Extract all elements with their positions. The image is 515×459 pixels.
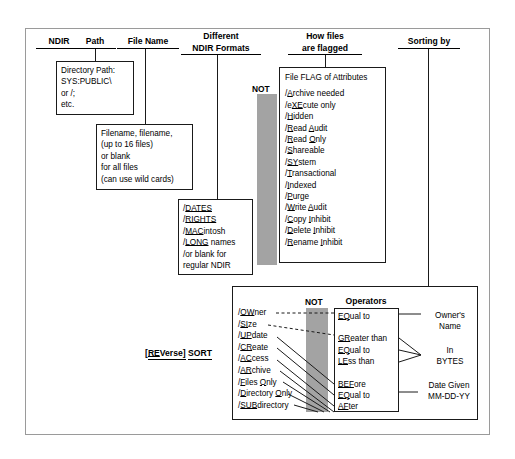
header-sorting-by-label: Sorting by [398,36,460,49]
result-owner-line-1: Name [424,322,476,333]
ndir-format-item-2: /MACintosh [183,226,248,237]
file-name-line-1: (up to 16 files) [101,139,188,150]
header-how-files-flagged: How files are flagged [288,31,362,55]
flag-item-1: /eXEcute only [285,100,380,111]
connector-path [95,49,96,61]
file-name-line-3: for all files [101,162,188,173]
file-name-box: Filename, filename, (up to 16 files) or … [96,124,193,190]
header-file-name-label: File Name [117,36,179,49]
ndir-format-item-3: /LONG names [183,237,248,248]
file-flag-attributes-title: File FLAG of Attributes [285,72,380,83]
result-date-given: Date Given MM-DD-YY [419,381,479,402]
result-bytes-line-1: BYTES [424,357,476,368]
operator-item-3: LEss than [338,356,395,367]
reverse-sort-mnemonic: RE [148,348,160,358]
flag-item-10: /Write Audit [285,202,380,213]
operators-box: EQual to GReater than EQual to LEss than… [334,308,399,412]
flag-item-6: /SYstem [285,157,380,168]
directory-path-line-0: Directory Path: [61,65,129,76]
sort-fields-list: /OWner /SIze /UPdate /CReate /ACcess /AR… [238,307,292,411]
operator-item-0: EQual to [338,311,395,322]
ndir-formats-box: /DATES /RIGHTS /MACintosh /LONG names /o… [178,199,253,275]
header-ndir-formats: Different NDIR Formats [181,31,261,55]
header-path-label: Path [74,36,116,49]
file-name-line-4: (can use wild cards) [101,174,188,185]
operator-item-1: GReater than [338,333,395,344]
ndir-format-item-0: /DATES [183,203,248,214]
connector-file-name [145,49,146,124]
sort-field-3: /CReate [238,342,292,354]
header-ndir-formats-line1: Different [181,31,261,43]
sort-field-4: /ACcess [238,353,292,365]
ndir-format-item-1: /RIGHTS [183,214,248,225]
sort-field-2: /UPdate [238,330,292,342]
directory-path-box: Directory Path: SYS:PUBLIC\ or /; etc. [56,61,134,115]
header-how-files-flagged-line2: are flagged [288,43,362,56]
header-ndir-formats-line2: NDIR Formats [181,43,261,56]
ndir-format-item-4: /or blank for [183,249,248,260]
flag-item-12: /Delete Inhibit [285,225,380,236]
result-in-bytes: In BYTES [424,346,476,367]
sort-field-8: /SUBdirectory [238,400,292,412]
sort-field-5: /ARchive [238,365,292,377]
header-file-name: File Name [117,36,179,49]
reverse-sort-rest: Verse] [160,348,186,358]
flag-item-0: /Archive needed [285,88,380,99]
sort-field-6: /Files Only [238,377,292,389]
operator-item-4: BEFore [338,379,395,390]
flag-item-11: /Copy Inhibit [285,214,380,225]
diagram-canvas: NDIR Path File Name Different NDIR Forma… [0,0,515,459]
header-path: Path [74,36,116,49]
flag-item-2: /Hidden [285,111,380,122]
header-how-files-flagged-line1: How files [288,31,362,43]
file-name-line-2: or blank [101,151,188,162]
result-date-line-1: MM-DD-YY [419,392,479,403]
ndir-format-item-5: regular NDIR [183,260,248,271]
result-owner-name: Owner's Name [424,311,476,332]
operators-title: Operators [334,296,398,307]
header-sorting-by: Sorting by [398,36,460,49]
result-bytes-line-0: In [424,346,476,357]
not-bar-bottom [306,308,328,412]
flag-item-8: /Indexed [285,180,380,191]
operators-title-label: Operators [334,296,398,307]
connector-how-files-flagged [325,55,326,67]
result-owner-line-0: Owner's [424,311,476,322]
flag-item-9: /Purge [285,191,380,202]
file-name-line-0: Filename, filename, [101,128,188,139]
sort-keyword: SORT [188,348,212,360]
operator-item-5: EQual to [338,390,395,401]
result-date-line-0: Date Given [419,381,479,392]
flag-item-7: /Transactional [285,168,380,179]
connector-sorting-by [428,49,429,286]
operators-spacer-2 [338,368,395,379]
directory-path-line-1: SYS:PUBLIC\ [61,76,129,87]
operators-spacer-1 [338,322,395,333]
not-bar-top [257,94,277,265]
directory-path-line-3: etc. [61,99,129,110]
operator-item-6: AFter [338,401,395,412]
sort-field-7: /Directory Only [238,388,292,400]
flag-item-4: /Read Only [285,134,380,145]
flag-item-13: /Rename Inhibit [285,237,380,248]
directory-path-line-2: or /; [61,88,129,99]
connector-ndir-formats [217,55,218,199]
flag-item-5: /Shareable [285,145,380,156]
sort-field-1: /SIze [238,319,292,331]
file-flag-attributes-box: File FLAG of Attributes /Archive needed … [279,67,386,263]
flag-item-3: /Read Audit [285,123,380,134]
operator-item-2: EQual to [338,345,395,356]
not-label-top: NOT [252,84,270,94]
sort-field-0: /OWner [238,307,292,319]
not-label-bottom: NOT [305,297,323,307]
reverse-sort-label: [REVerse] SORT [145,348,212,358]
